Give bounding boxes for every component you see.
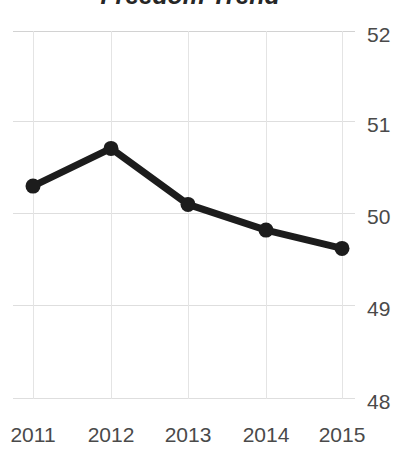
x-axis-tick-2011: 2011 [0,424,69,445]
data-point-2015 [335,241,350,256]
y-axis-tick-51: 51 [367,114,411,135]
y-axis-tick-50: 50 [367,206,411,227]
x-axis-tick-2013: 2013 [152,424,224,445]
y-axis-tick-52: 52 [367,24,411,45]
chart-container: Freedom Trend 52 51 50 49 48 2011 2012 2… [0,0,419,464]
data-series-freedom [0,0,419,464]
data-point-2012 [104,141,119,156]
y-axis-tick-48: 48 [367,391,411,412]
data-point-2013 [181,197,196,212]
data-point-2011 [26,179,41,194]
plot-area: 52 51 50 49 48 2011 2012 2013 2014 2015 [0,0,419,464]
y-axis-tick-49: 49 [367,298,411,319]
x-axis-tick-2015: 2015 [306,424,378,445]
data-point-2014 [259,223,274,238]
x-axis-tick-2014: 2014 [230,424,302,445]
x-axis-tick-2012: 2012 [75,424,147,445]
